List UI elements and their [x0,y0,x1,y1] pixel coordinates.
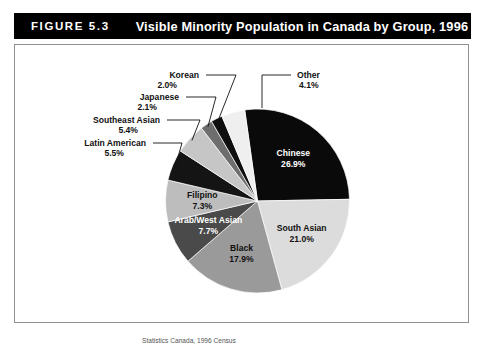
chart-frame [14,44,469,323]
figure-title-text: Visible Minority Population in Canada by… [136,19,469,34]
figure-container: FIGURE 5.3 Visible Minority Population i… [0,0,499,348]
figure-number-label: FIGURE 5.3 [31,20,110,32]
figure-title-bar: FIGURE 5.3 Visible Minority Population i… [14,13,471,39]
source-note: Statistics Canada, 1996 Census [142,337,462,346]
